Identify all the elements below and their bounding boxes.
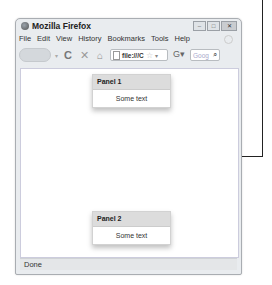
panel-1-title: Panel 1 xyxy=(93,75,170,90)
url-dropdown-icon[interactable]: ▾ xyxy=(155,52,158,59)
history-dropdown-icon[interactable]: ▾ xyxy=(55,52,58,59)
throbber-icon xyxy=(224,35,233,44)
page-content: Panel 1 Some text Panel 2 Some text xyxy=(20,68,239,258)
menu-file[interactable]: File xyxy=(19,34,31,44)
menu-help[interactable]: Help xyxy=(175,34,190,44)
menu-view[interactable]: View xyxy=(56,34,72,44)
window-title: Mozilla Firefox xyxy=(32,21,91,31)
minimize-button[interactable]: – xyxy=(193,21,206,31)
menu-bookmarks[interactable]: Bookmarks xyxy=(108,34,146,44)
back-forward-button[interactable] xyxy=(19,48,51,62)
page-icon xyxy=(113,51,120,60)
bookmark-star-icon[interactable]: ☆ xyxy=(146,51,153,60)
panel-1: Panel 1 Some text xyxy=(92,74,171,108)
status-bar: Done xyxy=(20,258,237,270)
menu-bar: File Edit View History Bookmarks Tools H… xyxy=(19,34,190,44)
search-input[interactable]: Goog ⌕ xyxy=(190,49,220,61)
stop-icon[interactable]: ✕ xyxy=(78,49,90,62)
search-icon[interactable]: ⌕ xyxy=(213,50,217,60)
title-bar: Mozilla Firefox – □ ✕ xyxy=(16,19,241,32)
panel-2-title: Panel 2 xyxy=(93,212,170,227)
url-bar[interactable]: file:///C ☆ ▾ xyxy=(110,49,168,61)
close-button[interactable]: ✕ xyxy=(221,21,237,31)
navigation-toolbar: ▾ C ✕ ⌂ file:///C ☆ ▾ G▾ Goog ⌕ xyxy=(19,47,238,63)
reload-icon[interactable]: C xyxy=(62,49,74,61)
home-icon[interactable]: ⌂ xyxy=(94,50,106,61)
search-placeholder: Goog xyxy=(193,52,209,59)
browser-window: Mozilla Firefox – □ ✕ File Edit View His… xyxy=(15,18,242,275)
menu-tools[interactable]: Tools xyxy=(151,34,169,44)
callout-line-vertical xyxy=(262,0,263,157)
maximize-button[interactable]: □ xyxy=(207,21,220,31)
panel-1-body: Some text xyxy=(93,90,170,107)
url-text: file:///C xyxy=(122,52,144,59)
search-engine-icon[interactable]: G▾ xyxy=(172,49,186,61)
menu-history[interactable]: History xyxy=(78,34,101,44)
panel-2-body: Some text xyxy=(93,227,170,244)
panel-2: Panel 2 Some text xyxy=(92,211,171,245)
firefox-icon xyxy=(21,22,29,30)
menu-edit[interactable]: Edit xyxy=(37,34,50,44)
